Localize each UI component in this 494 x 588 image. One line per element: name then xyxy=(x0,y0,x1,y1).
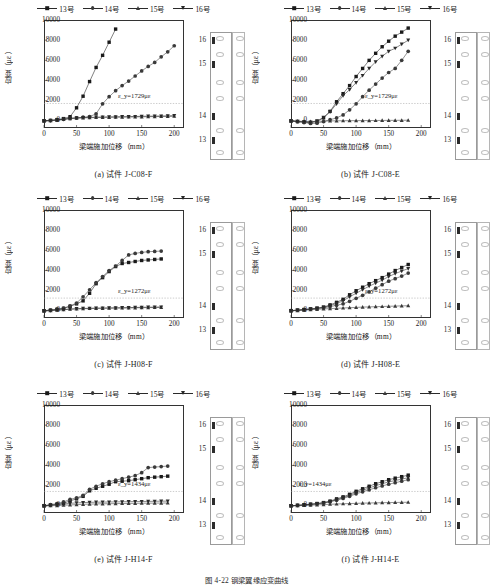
gauge-location-inset: 16151413 xyxy=(190,222,246,350)
data-point-16号 xyxy=(400,43,404,47)
square-marker-icon xyxy=(292,196,296,200)
legend-item-13号[interactable]: 13号 xyxy=(284,388,320,399)
legend-item-15号[interactable]: 15号 xyxy=(128,3,164,14)
series-canvas xyxy=(291,20,431,128)
gauge-marker-14 xyxy=(212,498,215,505)
y-tick-label: 6000 xyxy=(267,442,307,449)
legend-item-16号[interactable]: 16号 xyxy=(420,3,456,14)
legend-item-15号[interactable]: 15号 xyxy=(128,388,164,399)
legend-label: 16号 xyxy=(195,3,209,14)
legend-item-13号[interactable]: 13号 xyxy=(284,3,320,14)
y-axis-title: 应变（με） xyxy=(250,48,261,85)
gauge-location-inset: 16151413 xyxy=(435,32,491,160)
legend-item-14号[interactable]: 14号 xyxy=(83,3,119,14)
legend-item-15号[interactable]: 15号 xyxy=(375,193,411,204)
legend-item-14号[interactable]: 14号 xyxy=(83,388,119,399)
legend-item-15号[interactable]: 15号 xyxy=(375,3,411,14)
data-point-14号 xyxy=(101,275,105,279)
legend-item-14号[interactable]: 14号 xyxy=(330,388,366,399)
series-canvas xyxy=(44,405,184,513)
plot-area-c: 0200040006000800010000050100150200应变（με）… xyxy=(0,204,247,354)
y-tick-label: 0 xyxy=(267,502,307,509)
data-point-13号 xyxy=(94,66,97,69)
series-line-14号 xyxy=(291,51,408,123)
data-point-14号 xyxy=(114,89,118,93)
x-tick-label: 0 xyxy=(278,131,304,138)
x-tick-label: 200 xyxy=(161,131,187,138)
gauge-marker-14 xyxy=(457,498,460,505)
gauge-label-13: 13 xyxy=(435,327,451,334)
gauge-label-14: 14 xyxy=(435,303,451,310)
data-point-16号 xyxy=(393,272,397,276)
legend-item-13号[interactable]: 13号 xyxy=(37,388,73,399)
data-point-14号 xyxy=(94,484,98,488)
square-marker-icon xyxy=(292,391,296,395)
legend-item-16号[interactable]: 16号 xyxy=(173,3,209,14)
legend-item-14号[interactable]: 14号 xyxy=(83,193,119,204)
data-point-13号 xyxy=(146,476,149,479)
data-point-14号 xyxy=(380,283,384,287)
x-tick-label: 100 xyxy=(96,321,122,328)
yield-strain-annotation: ε_y=1272με xyxy=(118,287,151,294)
x-tick-label: 50 xyxy=(311,516,337,523)
triangle-up-marker-icon xyxy=(383,196,387,200)
legend-item-13号[interactable]: 13号 xyxy=(37,3,73,14)
legend-label: 15号 xyxy=(150,388,164,399)
y-tick-label: 10000 xyxy=(20,17,60,24)
data-point-14号 xyxy=(127,475,131,479)
gauge-marker-16 xyxy=(212,422,215,429)
legend-item-15号[interactable]: 15号 xyxy=(375,388,411,399)
legend-line-16号 xyxy=(173,8,193,9)
legend-item-13号[interactable]: 13号 xyxy=(37,193,73,204)
x-tick-label: 0 xyxy=(31,516,57,523)
circle-marker-icon xyxy=(91,6,95,10)
data-point-13号 xyxy=(153,475,156,478)
y-tick-label: 2000 xyxy=(267,97,307,104)
data-point-13号 xyxy=(348,84,351,87)
y-tick-label: 0 xyxy=(20,117,60,124)
legend-line-15号 xyxy=(375,198,395,199)
data-point-16号 xyxy=(374,282,378,286)
data-point-13号 xyxy=(393,34,396,37)
legend-label: 13号 xyxy=(306,388,320,399)
gauge-label-15: 15 xyxy=(190,251,206,258)
yield-strain-annotation: ε_y=1434με xyxy=(299,480,332,487)
y-tick-label: 4000 xyxy=(20,462,60,469)
legend-item-14号[interactable]: 14号 xyxy=(330,193,366,204)
legend-line-14号 xyxy=(330,8,350,9)
legend-item-13号[interactable]: 13号 xyxy=(284,193,320,204)
data-point-13号 xyxy=(361,67,364,70)
gauge-label-16: 16 xyxy=(190,227,206,234)
data-point-13号 xyxy=(146,258,149,261)
x-tick-label: 50 xyxy=(64,131,90,138)
legend-line-15号 xyxy=(375,393,395,394)
data-point-16号 xyxy=(387,275,391,279)
legend-line-16号 xyxy=(420,8,440,9)
data-point-13号 xyxy=(88,80,91,83)
data-point-13号 xyxy=(140,259,143,262)
data-point-13号 xyxy=(81,299,84,302)
subplot-caption-c: (c) 试件 J-H08-F xyxy=(0,358,247,369)
gauge-label-15: 15 xyxy=(435,446,451,453)
x-tick-label: 200 xyxy=(408,321,434,328)
legend-item-16号[interactable]: 16号 xyxy=(420,388,456,399)
data-point-14号 xyxy=(406,49,410,53)
legend-item-16号[interactable]: 16号 xyxy=(420,193,456,204)
legend-line-13号 xyxy=(37,8,57,9)
y-axis-title: 应变（με） xyxy=(250,238,261,275)
legend-item-15号[interactable]: 15号 xyxy=(128,193,164,204)
y-tick-label: 4000 xyxy=(20,77,60,84)
gauge-label-15: 15 xyxy=(190,446,206,453)
legend-item-16号[interactable]: 16号 xyxy=(173,388,209,399)
subplot-f: 13号14号15号16号0200040006000800010000050100… xyxy=(247,385,494,578)
data-point-14号 xyxy=(361,293,365,297)
legend-item-16号[interactable]: 16号 xyxy=(173,193,209,204)
plot-area-e: 0200040006000800010000050100150200应变（με）… xyxy=(0,399,247,549)
data-point-13号 xyxy=(407,263,410,266)
data-point-14号 xyxy=(367,88,371,92)
gauge-label-15: 15 xyxy=(190,61,206,68)
subplot-caption-d: (d) 试件 J-H08-E xyxy=(247,358,494,369)
legend-label: 16号 xyxy=(195,388,209,399)
subplot-caption-e: (e) 试件 J-H14-F xyxy=(0,553,247,564)
legend-item-14号[interactable]: 14号 xyxy=(330,3,366,14)
